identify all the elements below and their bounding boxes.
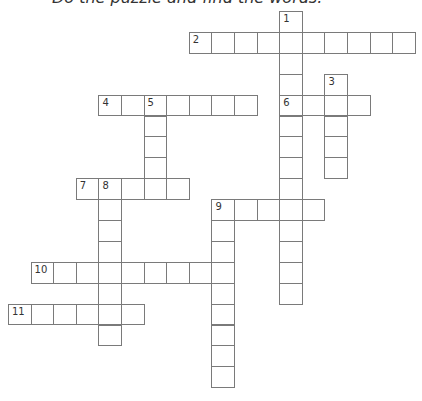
crossword-cell[interactable] bbox=[98, 304, 122, 326]
crossword-cell[interactable] bbox=[144, 136, 168, 158]
crossword-cell[interactable] bbox=[166, 262, 190, 284]
crossword-cell[interactable]: 1 bbox=[279, 11, 303, 33]
clue-number: 11 bbox=[12, 307, 25, 317]
crossword-cell[interactable] bbox=[279, 53, 303, 75]
clue-number: 10 bbox=[35, 265, 48, 275]
crossword-cell[interactable] bbox=[121, 178, 145, 200]
crossword-cell[interactable]: 4 bbox=[98, 95, 122, 117]
crossword-cell[interactable] bbox=[234, 32, 258, 54]
clue-number: 6 bbox=[283, 98, 289, 108]
crossword-cell[interactable] bbox=[302, 95, 326, 117]
crossword-cell[interactable] bbox=[98, 199, 122, 221]
crossword-cell[interactable]: 2 bbox=[189, 32, 213, 54]
crossword-cell[interactable] bbox=[234, 199, 258, 221]
crossword-cell[interactable] bbox=[279, 178, 303, 200]
crossword-cell[interactable] bbox=[279, 241, 303, 263]
crossword-cell[interactable] bbox=[211, 95, 235, 117]
crossword-cell[interactable]: 3 bbox=[324, 74, 348, 96]
clue-number: 8 bbox=[102, 181, 108, 191]
crossword-cell[interactable] bbox=[211, 345, 235, 367]
crossword-cell[interactable] bbox=[121, 95, 145, 117]
clue-number: 7 bbox=[80, 181, 86, 191]
crossword-cell[interactable] bbox=[257, 199, 281, 221]
crossword-cell[interactable] bbox=[302, 199, 326, 221]
crossword-cell[interactable] bbox=[392, 32, 416, 54]
crossword-cell[interactable] bbox=[279, 116, 303, 138]
crossword-cell[interactable] bbox=[279, 262, 303, 284]
crossword-cell[interactable] bbox=[31, 304, 55, 326]
clue-number: 3 bbox=[328, 77, 334, 87]
crossword-cell[interactable] bbox=[76, 304, 100, 326]
crossword-cell[interactable] bbox=[98, 262, 122, 284]
crossword-cell[interactable] bbox=[234, 95, 258, 117]
crossword-cell[interactable]: 7 bbox=[76, 178, 100, 200]
crossword-cell[interactable] bbox=[279, 74, 303, 96]
crossword-cell[interactable] bbox=[121, 262, 145, 284]
crossword-cell[interactable] bbox=[324, 116, 348, 138]
crossword-cell[interactable] bbox=[98, 325, 122, 347]
crossword-cell[interactable] bbox=[98, 241, 122, 263]
crossword-cell[interactable] bbox=[324, 95, 348, 117]
crossword-cell[interactable] bbox=[144, 262, 168, 284]
crossword-cell[interactable] bbox=[211, 32, 235, 54]
crossword-cell[interactable] bbox=[166, 178, 190, 200]
crossword-cell[interactable] bbox=[189, 95, 213, 117]
crossword-cell[interactable] bbox=[189, 262, 213, 284]
crossword-cell[interactable] bbox=[302, 32, 326, 54]
crossword-cell[interactable] bbox=[279, 199, 303, 221]
crossword-cell[interactable] bbox=[53, 304, 77, 326]
clue-number: 2 bbox=[193, 35, 199, 45]
crossword-cell[interactable] bbox=[53, 262, 77, 284]
crossword-cell[interactable] bbox=[166, 95, 190, 117]
crossword-cell[interactable]: 5 bbox=[144, 95, 168, 117]
crossword-cell[interactable] bbox=[98, 283, 122, 305]
crossword-cell[interactable] bbox=[370, 32, 394, 54]
crossword-cell[interactable] bbox=[347, 32, 371, 54]
crossword-cell[interactable] bbox=[144, 116, 168, 138]
crossword-cell[interactable] bbox=[324, 136, 348, 158]
crossword-cell[interactable] bbox=[279, 220, 303, 242]
crossword-cell[interactable] bbox=[144, 157, 168, 179]
crossword-cell[interactable]: 11 bbox=[8, 304, 32, 326]
crossword-cell[interactable]: 8 bbox=[98, 178, 122, 200]
crossword-cell[interactable] bbox=[76, 262, 100, 284]
crossword-cell[interactable]: 9 bbox=[211, 199, 235, 221]
crossword-cell[interactable]: 10 bbox=[31, 262, 55, 284]
crossword-cell[interactable] bbox=[121, 304, 145, 326]
crossword-cell[interactable] bbox=[279, 157, 303, 179]
crossword-cell[interactable] bbox=[257, 32, 281, 54]
crossword-cell[interactable] bbox=[347, 95, 371, 117]
clue-number: 1 bbox=[283, 14, 289, 24]
crossword-cell[interactable] bbox=[211, 220, 235, 242]
crossword-cell[interactable] bbox=[324, 157, 348, 179]
crossword-grid: 1623457891011 bbox=[0, 0, 422, 401]
clue-number: 5 bbox=[148, 98, 154, 108]
crossword-cell[interactable] bbox=[211, 241, 235, 263]
crossword-cell[interactable] bbox=[211, 283, 235, 305]
crossword-cell[interactable] bbox=[279, 283, 303, 305]
crossword-cell[interactable] bbox=[324, 32, 348, 54]
crossword-cell[interactable] bbox=[211, 325, 235, 347]
crossword-cell[interactable] bbox=[211, 366, 235, 388]
clue-number: 4 bbox=[102, 98, 108, 108]
crossword-cell[interactable] bbox=[279, 32, 303, 54]
crossword-cell[interactable] bbox=[98, 220, 122, 242]
crossword-cell[interactable] bbox=[211, 262, 235, 284]
crossword-cell[interactable]: 6 bbox=[279, 95, 303, 117]
crossword-cell[interactable] bbox=[279, 136, 303, 158]
crossword-cell[interactable] bbox=[144, 178, 168, 200]
clue-number: 9 bbox=[215, 202, 221, 212]
crossword-cell[interactable] bbox=[211, 304, 235, 326]
